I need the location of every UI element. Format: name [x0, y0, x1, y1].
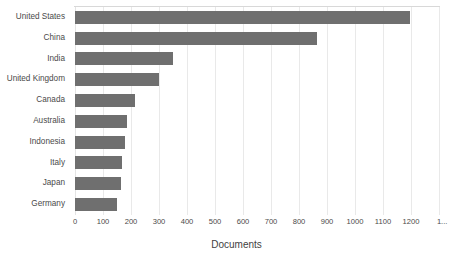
bar-chart: United StatesChinaIndiaUnited KingdomCan… [0, 0, 455, 263]
category-label: Germany [31, 194, 65, 215]
category-label: Italy [50, 153, 65, 174]
x-tick-label: 1000 [347, 217, 364, 226]
x-tick-label: 1100 [375, 217, 391, 226]
bar-row [75, 111, 127, 132]
x-tick-label: 300 [153, 217, 166, 226]
bar [75, 198, 117, 211]
bar [75, 11, 410, 24]
plot-area [75, 7, 439, 215]
bar [75, 94, 135, 107]
x-tick-label: 900 [321, 217, 334, 226]
category-label: United Kingdom [7, 69, 65, 90]
bar [75, 156, 122, 169]
category-axis-labels: United StatesChinaIndiaUnited KingdomCan… [0, 7, 70, 215]
x-tick-label: 0 [73, 217, 77, 226]
x-tick-label: 600 [237, 217, 250, 226]
category-label: India [47, 49, 65, 70]
bar [75, 177, 121, 190]
bar [75, 32, 317, 45]
bar-row [75, 69, 159, 90]
bar [75, 136, 125, 149]
gridline [439, 7, 440, 215]
category-label: Canada [36, 90, 65, 111]
x-tick-label: 800 [293, 217, 306, 226]
x-tick-label: 100 [97, 217, 110, 226]
category-label: Japan [43, 173, 65, 194]
category-label: China [44, 28, 65, 49]
bar-row [75, 49, 173, 70]
category-label: Indonesia [29, 132, 65, 153]
category-label: United States [16, 7, 65, 28]
x-axis-title: Documents [0, 239, 455, 250]
x-tick-label: 200 [125, 217, 138, 226]
category-label: Australia [33, 111, 65, 132]
bar [75, 115, 127, 128]
x-tick-label: 1200 [403, 217, 420, 226]
bar-row [75, 7, 410, 28]
bar-row [75, 90, 135, 111]
bar-row [75, 153, 122, 174]
x-axis-tick-labels: 0100200300400500600700800900100011001200… [75, 217, 445, 231]
gridline [411, 7, 412, 215]
bar-row [75, 173, 121, 194]
bar [75, 73, 159, 86]
x-tick-label: 500 [209, 217, 222, 226]
gridline [383, 7, 384, 215]
bar-row [75, 28, 317, 49]
gridline [327, 7, 328, 215]
gridline [355, 7, 356, 215]
bar-row [75, 132, 125, 153]
bar [75, 52, 173, 65]
x-tick-label: 700 [265, 217, 278, 226]
x-tick-label: 400 [181, 217, 194, 226]
bar-row [75, 194, 117, 215]
x-tick-label: 1... [437, 217, 448, 226]
